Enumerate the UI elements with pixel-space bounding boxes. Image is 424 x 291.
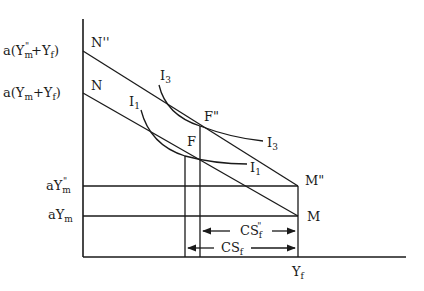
budget-line-N-M	[83, 93, 298, 216]
label-M: M	[307, 209, 320, 224]
diagram-canvas: a(Ym"+Yf) a(Ym+Yf) aYm" aYm N'' N F" F M…	[0, 0, 424, 291]
label-I1-end: I1	[250, 160, 261, 177]
label-N2: N''	[91, 35, 110, 50]
label-CSf2: CSf"	[240, 221, 263, 240]
label-a-Ym-plus-Yf: a(Ym+Yf)	[3, 85, 61, 102]
label-aYm: aYm	[48, 207, 73, 224]
label-Yf: Yf	[291, 264, 305, 281]
label-F: F	[187, 134, 196, 149]
label-F2: F"	[204, 109, 219, 124]
label-I1-top: I1	[129, 94, 140, 111]
label-I3-top: I3	[160, 68, 171, 85]
label-N: N	[91, 78, 102, 93]
label-I3-end: I3	[267, 135, 278, 152]
label-aYm2: aYm"	[46, 176, 71, 195]
label-a-Ym2-plus-Yf: a(Ym"+Yf)	[3, 41, 59, 60]
label-CSf: CSf	[221, 240, 244, 257]
label-M2: M"	[305, 173, 324, 188]
budget-line-N2-M2	[83, 51, 298, 186]
